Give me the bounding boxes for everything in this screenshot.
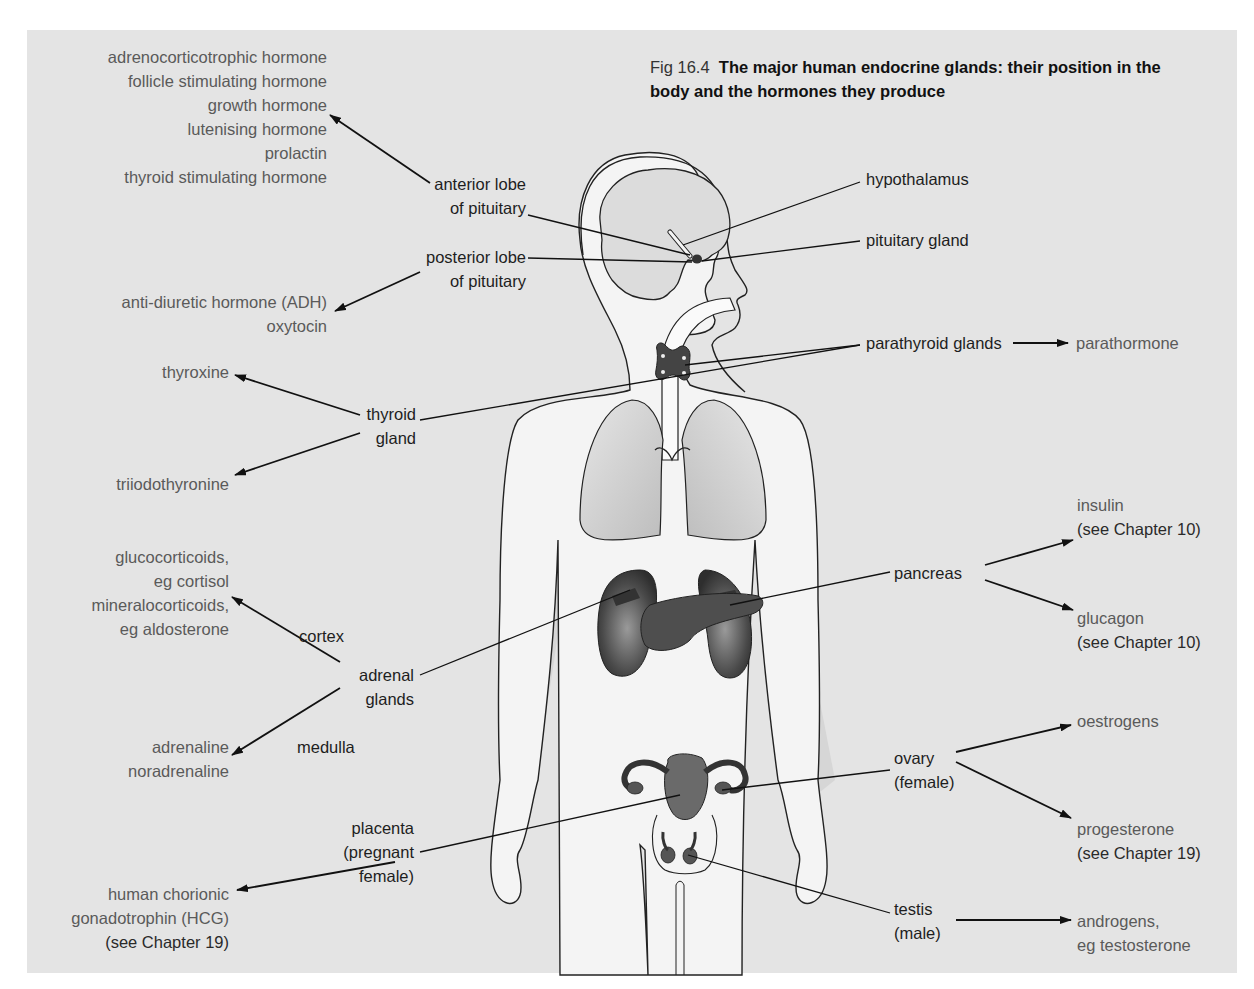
label-line: (female) [894, 770, 955, 794]
chapter-reference: (see Chapter 10) [1077, 517, 1201, 541]
hormone-line: eg aldosterone [91, 617, 229, 641]
hormone-line: adrenaline [128, 735, 229, 759]
label-line: of pituitary [434, 196, 526, 220]
figure-title: The major human endocrine glands: their … [650, 58, 1161, 100]
hormone-parathormone: parathormone [1076, 331, 1179, 355]
hormone-insulin: insulin (see Chapter 10) [1077, 493, 1201, 541]
testis-label: testis (male) [894, 897, 941, 945]
pituitary-gland-label: pituitary gland [866, 228, 969, 252]
hormone-progesterone: progesterone (see Chapter 19) [1077, 817, 1201, 865]
hormone-thyroxine: thyroxine [162, 360, 229, 384]
label-line: of pituitary [426, 269, 526, 293]
hormone-fsh: follicle stimulating hormone [108, 69, 327, 93]
adrenal-medulla-hormones: adrenaline noradrenaline [128, 735, 229, 783]
hormone-glucagon: glucagon (see Chapter 10) [1077, 606, 1201, 654]
hormone-lh: lutenising hormone [108, 117, 327, 141]
anterior-pituitary-hormones: adrenocorticotrophic hormone follicle st… [108, 45, 327, 189]
hormone-line: mineralocorticoids, [91, 593, 229, 617]
hormone-oestrogens: oestrogens [1077, 709, 1159, 733]
hypothalamus-label: hypothalamus [866, 167, 969, 191]
adrenal-label: adrenal glands [359, 663, 414, 711]
hormone-line: human chorionic [71, 882, 229, 906]
figure-number: Fig 16.4 [650, 58, 710, 76]
adrenal-cortex-label: cortex [299, 624, 344, 648]
hormone-acth: adrenocorticotrophic hormone [108, 45, 327, 69]
pituitary-gland-shape [692, 255, 702, 264]
label-line: posterior lobe [426, 245, 526, 269]
figure-caption: Fig 16.4 The major human endocrine gland… [650, 55, 1190, 103]
hormone-androgens: androgens, eg testosterone [1077, 909, 1191, 957]
placenta-label: placenta (pregnant female) [343, 816, 414, 888]
parathyroid-label: parathyroid glands [866, 331, 1002, 355]
label-line: anterior lobe [434, 172, 526, 196]
label-line: ovary [894, 746, 955, 770]
chapter-reference: (see Chapter 10) [1077, 630, 1201, 654]
hormone-line: insulin [1077, 493, 1201, 517]
pancreas-label: pancreas [894, 561, 962, 585]
hormone-triiodothyronine: triiodothyronine [116, 472, 229, 496]
label-line: (pregnant [343, 840, 414, 864]
hormone-line: noradrenaline [128, 759, 229, 783]
label-line: adrenal [359, 663, 414, 687]
adrenal-medulla-label: medulla [297, 735, 355, 759]
label-line: gland [366, 426, 416, 450]
label-line: (male) [894, 921, 941, 945]
posterior-pituitary-hormones: anti-diuretic hormone (ADH) oxytocin [122, 290, 327, 338]
hormone-line: eg cortisol [91, 569, 229, 593]
label-line: testis [894, 897, 941, 921]
thyroid-label: thyroid gland [366, 402, 416, 450]
hormone-line: androgens, [1077, 909, 1191, 933]
hormone-line: eg testosterone [1077, 933, 1191, 957]
label-line: placenta [343, 816, 414, 840]
ovary-label: ovary (female) [894, 746, 955, 794]
hormone-prolactin: prolactin [108, 141, 327, 165]
right-ovary [715, 782, 731, 794]
hormone-line: progesterone [1077, 817, 1201, 841]
left-ovary [627, 782, 643, 794]
label-line: female) [343, 864, 414, 888]
hormone-line: glucagon [1077, 606, 1201, 630]
hormone-tsh: thyroid stimulating hormone [108, 165, 327, 189]
adrenal-cortex-hormones: glucocorticoids, eg cortisol mineralocor… [91, 545, 229, 641]
hormone-gh: growth hormone [108, 93, 327, 117]
label-line: glands [359, 687, 414, 711]
hormone-line: gonadotrophin (HCG) [71, 906, 229, 930]
chapter-reference: (see Chapter 19) [71, 930, 229, 954]
hormone-adh: anti-diuretic hormone (ADH) [122, 290, 327, 314]
label-line: thyroid [366, 402, 416, 426]
posterior-pituitary-label: posterior lobe of pituitary [426, 245, 526, 293]
hormone-oxytocin: oxytocin [122, 314, 327, 338]
anterior-pituitary-label: anterior lobe of pituitary [434, 172, 526, 220]
hormone-line: glucocorticoids, [91, 545, 229, 569]
chapter-reference: (see Chapter 19) [1077, 841, 1201, 865]
placenta-hormones: human chorionic gonadotrophin (HCG) (see… [71, 882, 229, 954]
